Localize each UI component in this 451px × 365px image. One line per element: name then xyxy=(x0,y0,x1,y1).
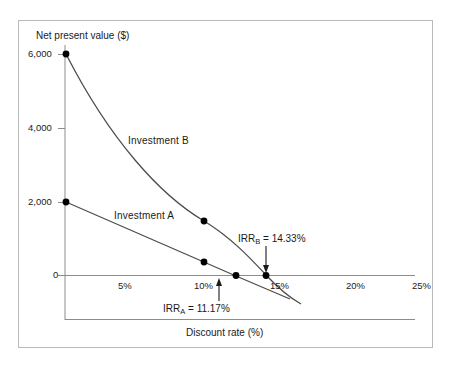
irr-a-label: IRR xyxy=(163,303,180,314)
y-tick-label-4000: 4,000 xyxy=(28,122,52,133)
marker-b-irr xyxy=(263,272,270,279)
irr-a-value: = 11.17% xyxy=(188,303,230,314)
x-tick-label-5: 5% xyxy=(118,280,132,291)
y-tick-label-0: 0 xyxy=(53,269,58,280)
irr-a-arrow-head xyxy=(216,278,222,286)
series-label-investment-b: Investment B xyxy=(128,135,189,146)
x-tick-label-15: 15% xyxy=(270,280,289,291)
irr-a-annotation: IRRA = 11.17% xyxy=(163,303,230,317)
irr-b-subscript: B xyxy=(255,237,260,246)
y-tick-label-2000: 2,000 xyxy=(28,196,52,207)
marker-a-1 xyxy=(201,259,208,266)
irr-b-value: = 14.33% xyxy=(263,233,306,244)
marker-a-0 xyxy=(63,199,70,206)
marker-a-irr xyxy=(233,272,240,279)
series-label-investment-a: Investment A xyxy=(114,210,174,221)
marker-b-1 xyxy=(201,218,208,225)
marker-b-0 xyxy=(63,51,70,58)
x-axis-title: Discount rate (%) xyxy=(186,327,263,338)
y-axis-title: Net present value ($) xyxy=(36,30,129,41)
irr-b-label: IRR xyxy=(238,233,255,244)
x-tick-label-10: 10% xyxy=(194,280,213,291)
x-tick-label-20: 20% xyxy=(346,280,365,291)
y-tick-label-6000: 6,000 xyxy=(28,48,52,59)
irr-b-annotation: IRRB = 14.33% xyxy=(238,233,306,247)
x-tick-label-25: 25% xyxy=(412,280,431,291)
npv-irr-chart-figure: Net present value ($) Discount rate (%) … xyxy=(0,0,451,365)
irr-a-subscript: A xyxy=(180,307,185,316)
investment-a-line xyxy=(66,202,290,299)
